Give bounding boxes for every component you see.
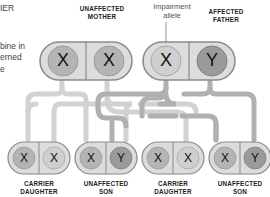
- child-4-left-letter: X: [219, 151, 231, 165]
- child-3-label: CARRIER DAUGHTER: [143, 180, 203, 195]
- inheritance-diagram: [0, 0, 270, 197]
- child-2-left-letter: X: [85, 151, 97, 165]
- child-1-left-letter: X: [18, 151, 30, 165]
- child-1-right-letter: X: [48, 151, 60, 165]
- child-4-label: UNAFFECTED SON: [210, 180, 270, 195]
- child-1-label: CARRIER DAUGHTER: [9, 180, 69, 195]
- father-right-letter: Y: [204, 50, 220, 71]
- mother-chromosome-pair: [40, 42, 132, 80]
- child-3-right-letter: X: [182, 151, 194, 165]
- child-3-left-letter: X: [152, 151, 164, 165]
- child-2-right-letter: Y: [115, 151, 127, 165]
- father-left-letter: X: [158, 50, 174, 71]
- mother-left-letter: X: [55, 50, 71, 71]
- mother-right-letter: X: [101, 50, 117, 71]
- child-4-right-letter: Y: [249, 151, 261, 165]
- father-chromosome-pair: [143, 42, 235, 80]
- child-2-label: UNAFFECTED SON: [76, 180, 136, 195]
